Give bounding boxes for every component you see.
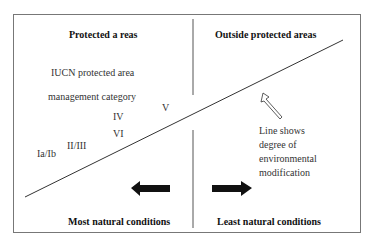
category-iv: IV (113, 111, 124, 122)
heading-most-natural: Most natural conditions (68, 216, 170, 227)
arrow-left-icon (131, 181, 170, 196)
arrow-right-icon (212, 181, 252, 196)
category-label-line1: IUCN protected area (51, 67, 134, 78)
heading-least-natural: Least natural conditions (217, 216, 321, 227)
category-v: V (162, 102, 169, 113)
category-label-line2: management category (48, 91, 136, 102)
hollow-arrow-icon (261, 93, 282, 119)
category-ia-ib: Ia/Ib (37, 148, 56, 159)
note-line1: Line shows (259, 125, 305, 136)
diagram-lines (0, 0, 374, 248)
heading-outside-protected-areas: Outside protected areas (215, 29, 316, 40)
category-vi: VI (113, 128, 124, 139)
heading-protected-areas: Protected a reas (69, 29, 138, 40)
note-line2: degree of (259, 139, 296, 150)
note-line4: modification (259, 167, 310, 178)
category-ii-iii: II/III (67, 140, 86, 151)
note-line3: environmental (259, 153, 317, 164)
